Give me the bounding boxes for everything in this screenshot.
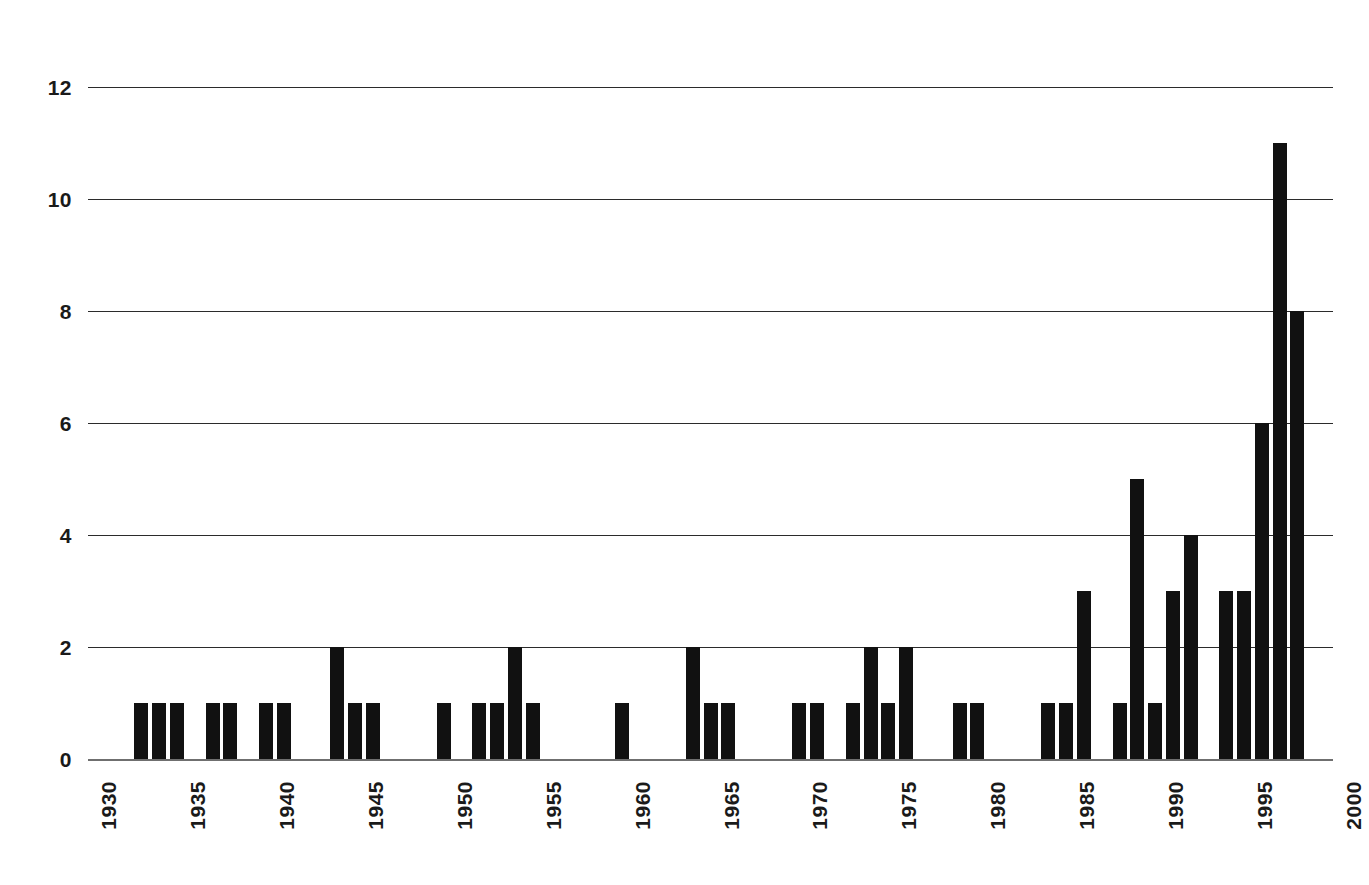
x-axis: 1930193519401945195019551960196519701975… xyxy=(0,759,1369,885)
bar xyxy=(508,647,522,759)
bar xyxy=(1077,591,1091,759)
bar xyxy=(1255,423,1269,759)
y-tick-label-10: 10 xyxy=(12,189,72,210)
x-tick-label-1975: 1975 xyxy=(898,781,919,830)
x-tick-label-1950: 1950 xyxy=(454,781,475,830)
bar xyxy=(223,703,237,759)
gridline-y-4 xyxy=(88,535,1333,536)
bar xyxy=(1041,703,1055,759)
bar xyxy=(1059,703,1073,759)
bar xyxy=(277,703,291,759)
gridline-y-8 xyxy=(88,311,1333,312)
bar xyxy=(792,703,806,759)
bar xyxy=(206,703,220,759)
y-tick-label-8: 8 xyxy=(12,301,72,322)
bar xyxy=(490,703,504,759)
bar xyxy=(1113,703,1127,759)
x-tick-label-1985: 1985 xyxy=(1076,781,1097,830)
bar xyxy=(721,703,735,759)
bar xyxy=(134,703,148,759)
x-tick-label-1955: 1955 xyxy=(543,781,564,830)
x-tick-label-1930: 1930 xyxy=(98,781,119,830)
gridline-y-2 xyxy=(88,647,1333,648)
x-tick-label-2000: 2000 xyxy=(1343,781,1364,830)
bar xyxy=(970,703,984,759)
bar xyxy=(810,703,824,759)
bar xyxy=(259,703,273,759)
bar xyxy=(1166,591,1180,759)
bar xyxy=(899,647,913,759)
x-tick-label-1960: 1960 xyxy=(632,781,653,830)
x-tick-label-1940: 1940 xyxy=(276,781,297,830)
x-tick-label-1965: 1965 xyxy=(721,781,742,830)
bar xyxy=(953,703,967,759)
bar xyxy=(1148,703,1162,759)
bar xyxy=(881,703,895,759)
bar xyxy=(686,647,700,759)
y-tick-label-12: 12 xyxy=(12,77,72,98)
plot-area xyxy=(88,87,1333,759)
x-tick-label-1970: 1970 xyxy=(809,781,830,830)
x-tick-label-1995: 1995 xyxy=(1254,781,1275,830)
bar xyxy=(615,703,629,759)
bar xyxy=(1130,479,1144,759)
bar xyxy=(170,703,184,759)
bar xyxy=(704,703,718,759)
bar xyxy=(1184,535,1198,759)
gridline-y-10 xyxy=(88,199,1333,200)
x-tick-label-1980: 1980 xyxy=(987,781,1008,830)
bar xyxy=(366,703,380,759)
y-tick-label-4: 4 xyxy=(12,525,72,546)
bar-chart: 024681012 193019351940194519501955196019… xyxy=(0,0,1369,885)
gridline-y-6 xyxy=(88,423,1333,424)
x-tick-label-1935: 1935 xyxy=(187,781,208,830)
gridline-y-12 xyxy=(88,87,1333,88)
x-tick-label-1990: 1990 xyxy=(1165,781,1186,830)
y-axis: 024681012 xyxy=(0,0,72,885)
bar xyxy=(152,703,166,759)
x-tick-label-1945: 1945 xyxy=(365,781,386,830)
y-tick-label-2: 2 xyxy=(12,637,72,658)
bar xyxy=(472,703,486,759)
bar xyxy=(1290,311,1304,759)
bar xyxy=(864,647,878,759)
bar xyxy=(348,703,362,759)
bar xyxy=(846,703,860,759)
bar xyxy=(1219,591,1233,759)
bar xyxy=(1273,143,1287,759)
bar xyxy=(1237,591,1251,759)
bar xyxy=(437,703,451,759)
y-tick-label-6: 6 xyxy=(12,413,72,434)
bar xyxy=(330,647,344,759)
bar xyxy=(526,703,540,759)
